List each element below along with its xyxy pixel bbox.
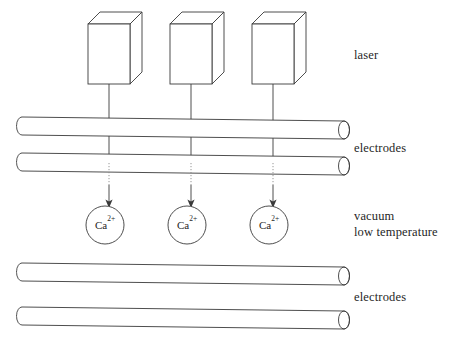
laser-box-3-side-face [294,12,306,84]
diagram-canvas: Ca2+ Ca2+ Ca2+ laser electrodes [0,0,472,360]
ion-3: Ca2+ [250,206,288,244]
electrode-bottom-2-body [17,307,350,329]
label-laser: laser [354,48,379,62]
laser-box-2 [170,12,224,84]
electrode-bottom-2 [17,307,350,329]
electrode-bottom-1-body [17,263,350,285]
electrode-top-1 [17,117,350,139]
label-electrodes-upper: electrodes [354,141,406,155]
electrode-top-2-body [17,153,350,175]
laser-box-group [88,12,306,84]
laser-box-1-side-face [130,12,142,84]
laser-box-1 [88,12,142,84]
ion-3-charge: 2+ [271,214,279,223]
ion-3-element: Ca [259,219,271,231]
electrode-bottom-1 [17,263,350,285]
ion-2: Ca2+ [168,206,206,244]
laser-box-3 [252,12,306,84]
side-label-group: laser electrodes vacuum low temperature … [354,48,438,304]
laser-beam-lower-group [105,185,276,208]
laser-box-2-side-face [212,12,224,84]
ion-trap-figure: Ca2+ Ca2+ Ca2+ laser electrodes [0,0,472,360]
ion-1: Ca2+ [86,206,124,244]
laser-box-1-front-face [88,24,130,84]
ion-2-charge: 2+ [189,214,197,223]
laser-box-3-front-face [252,24,294,84]
label-electrodes-lower: electrodes [354,290,406,304]
ion-group: Ca2+ Ca2+ Ca2+ [86,206,288,244]
label-low-temperature: low temperature [354,225,438,239]
electrode-top-1-body [17,117,350,139]
ion-1-charge: 2+ [107,214,115,223]
electrode-top-2 [17,153,350,175]
laser-box-2-front-face [170,24,212,84]
label-vacuum: vacuum [354,209,395,223]
ion-1-element: Ca [95,219,107,231]
ion-2-element: Ca [177,219,189,231]
